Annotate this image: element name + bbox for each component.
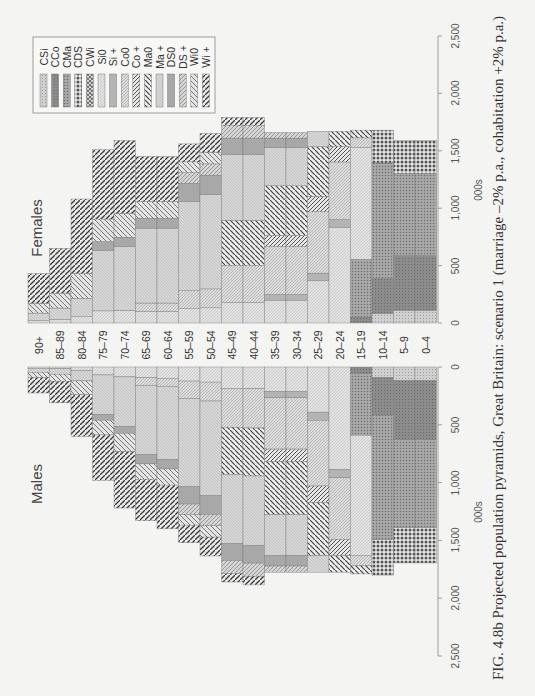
- bar-segment-DS0: [243, 546, 265, 563]
- legend-swatch-Co0: [121, 74, 128, 107]
- bar-segment-DS0: [179, 183, 201, 201]
- bar-segment-Si0: [50, 367, 72, 369]
- bar-segment-Si0: [329, 367, 351, 470]
- bar-segment-Co0: [329, 162, 351, 220]
- legend-label: Si0: [96, 49, 108, 64]
- bar-segment-Ma+: [222, 154, 244, 220]
- males-unit-label: 000s: [473, 501, 484, 523]
- bar-segment-CMa: [372, 415, 394, 540]
- legend-label: Ma +: [154, 45, 166, 69]
- bar-segment-CCo: [372, 377, 394, 414]
- bar-segment-Co+: [329, 539, 351, 555]
- bar-segment-CCo: [394, 255, 416, 310]
- bar-segment-CMa: [351, 373, 373, 435]
- bar-segment-Wi0: [136, 201, 158, 218]
- bar-segment-DS0: [265, 556, 287, 566]
- bar-segment-CDS: [372, 130, 394, 163]
- age-group-label: 70–74: [119, 330, 131, 359]
- bar-segment-Ma0: [329, 131, 351, 146]
- age-group-label: 60–64: [162, 330, 174, 359]
- bar-segment-Ma+: [93, 250, 115, 311]
- bar-segment-Wi0: [200, 526, 222, 537]
- males-label: Males: [28, 464, 45, 504]
- tick-label: 500: [450, 257, 461, 274]
- bar-segment-Wi+: [114, 452, 136, 508]
- tick-label: 2,000: [450, 81, 461, 106]
- bar-segment-Si0: [28, 321, 50, 323]
- bar-segment-Ma0: [265, 186, 287, 236]
- bar-segment-Si0: [243, 367, 265, 389]
- bar-segment-Wi0: [28, 372, 50, 377]
- bar-segment-Wi0: [71, 273, 93, 298]
- legend-label: Co +: [130, 46, 142, 68]
- bar-segment-Ma+: [265, 148, 287, 186]
- bar-segment-Wi+: [71, 199, 93, 273]
- bar-segment-DS0: [93, 415, 115, 421]
- bar-segment-DS+: [200, 514, 222, 525]
- legend-swatch-Wi0: [191, 74, 198, 107]
- bar-segment-Si0: [265, 300, 287, 323]
- bar-segment-CCo: [351, 317, 373, 323]
- tick-label: 1,000: [450, 470, 461, 495]
- bar-segment-DS0: [243, 138, 265, 154]
- bar-segment-Ma0: [243, 428, 265, 476]
- bar-segment-CSi: [372, 313, 394, 323]
- bar-segment-DS0: [136, 455, 158, 464]
- bar-segment-CDS: [394, 140, 416, 173]
- bar-segment-DS0: [286, 556, 308, 566]
- bar-segment-Wi+: [28, 377, 50, 393]
- bar-segment-CCo: [415, 381, 437, 440]
- legend-label: Wi0: [188, 48, 200, 66]
- bar-segment-Co+: [286, 235, 308, 246]
- bar-segment-Wi0: [136, 464, 158, 479]
- value-axes: [438, 36, 442, 656]
- bar-segment-Si0: [93, 367, 115, 375]
- bar-segment-Ma+: [308, 131, 330, 146]
- bar-segment-Wi0: [179, 515, 201, 526]
- bar-segment-Co0: [243, 265, 265, 302]
- bar-segment-Ma0: [222, 427, 244, 474]
- legend-label: Si +: [107, 48, 119, 66]
- bar-segment-Co0: [351, 555, 373, 565]
- bar-segment-Wi0: [114, 213, 136, 237]
- legend-label: DS +: [177, 45, 189, 69]
- bar-segment-Ma0: [265, 461, 287, 514]
- bar-segment-Co+: [265, 235, 287, 246]
- males-bars: [28, 367, 437, 585]
- bar-segment-CSi: [372, 367, 394, 377]
- legend-swatch-Ma+: [156, 74, 163, 107]
- bar-segment-Si0: [286, 367, 308, 392]
- bar-segment-Si+: [286, 294, 308, 300]
- bar-segment-Si0: [136, 367, 158, 378]
- bar-segment-CSi: [394, 310, 416, 323]
- bar-segment-DS+: [265, 132, 287, 138]
- age-group-label: 45–49: [226, 330, 238, 359]
- bar-segment-Co+: [286, 449, 308, 461]
- bar-segment-Ma0: [222, 220, 244, 265]
- bar-segment-Si0: [50, 319, 72, 323]
- bar-segment-Ma+: [286, 515, 308, 556]
- bar-segment-CDS: [372, 540, 394, 575]
- females-bars: [28, 118, 437, 323]
- bar-segment-Ma0: [329, 556, 351, 572]
- bar-segment-Si0: [222, 302, 244, 323]
- bar-segment-Si0: [308, 367, 330, 412]
- bar-segment-Ma+: [308, 556, 330, 572]
- bar-segment-DS+: [286, 132, 308, 138]
- bar-segment-Co0: [286, 247, 308, 295]
- bar-segment-DS+: [222, 561, 244, 574]
- legend-label: DS0: [165, 47, 177, 67]
- bar-segment-Si0: [222, 367, 244, 389]
- bar-segment-Si0: [114, 367, 136, 377]
- bar-segment-Co+: [329, 147, 351, 162]
- bar-segment-Si+: [308, 412, 330, 420]
- bar-segment-Ma+: [265, 515, 287, 556]
- bar-segment-DS0: [179, 486, 201, 504]
- bar-segment-Wi0: [28, 303, 50, 313]
- bar-segment-DS+: [243, 563, 265, 576]
- bar-segment-CCo: [372, 279, 394, 314]
- bar-segment-Ma+: [243, 476, 265, 546]
- bar-segment-Wi+: [93, 150, 115, 219]
- bar-segment-Wi0: [93, 420, 115, 435]
- bar-segment-CMa: [351, 259, 373, 317]
